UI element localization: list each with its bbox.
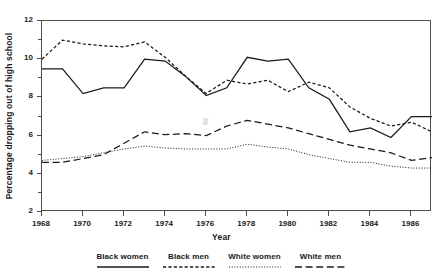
y-tick-label: 8 [11, 91, 33, 100]
x-tick-major [164, 211, 165, 216]
legend: Black womenBlack menWhite womenWhite men [0, 252, 443, 270]
x-tick-major [328, 211, 329, 216]
series-line-black-men [42, 40, 432, 132]
legend-item-black-women[interactable]: Black women [95, 252, 151, 270]
y-tick-label: 10 [11, 53, 33, 62]
x-tick-label: 1982 [308, 219, 348, 228]
y-tick-label: 4 [11, 168, 33, 177]
x-tick-label: 1986 [390, 219, 430, 228]
x-tick-label: 1968 [21, 219, 61, 228]
legend-item-label: White men [300, 252, 341, 261]
series-line-white-men [42, 120, 432, 162]
series-line-black-women [42, 57, 432, 137]
y-tick-label: 12 [11, 15, 33, 24]
x-tick-major [287, 211, 288, 216]
dropout-rate-line-chart: Percentage dropping out of high school 2… [0, 0, 443, 280]
x-tick-major [205, 211, 206, 216]
legend-swatch-solid [95, 264, 151, 270]
x-tick-major [369, 211, 370, 216]
x-tick-label: 1972 [103, 219, 143, 228]
legend-item-white-women[interactable]: White women [227, 252, 283, 270]
x-tick-major [123, 211, 124, 216]
x-tick-label: 1984 [349, 219, 389, 228]
x-tick-major [41, 211, 42, 216]
y-tick-label: 2 [11, 206, 33, 215]
x-tick-major [410, 211, 411, 216]
x-tick-label: 1976 [185, 219, 225, 228]
plot-area [41, 20, 431, 211]
y-tick-label: 6 [11, 130, 33, 139]
legend-swatch-dotted [227, 264, 283, 270]
legend-item-label: Black men [168, 252, 209, 261]
series-line-white-women [42, 144, 432, 168]
y-axis-title: Percentage dropping out of high school [2, 20, 16, 211]
clipped-header-text [0, 0, 443, 7]
series-canvas [42, 21, 432, 212]
legend-item-label: Black women [96, 252, 148, 261]
x-tick-major [246, 211, 247, 216]
x-tick-label: 1978 [226, 219, 266, 228]
x-axis-title: Year [0, 232, 443, 242]
x-tick-label: 1970 [62, 219, 102, 228]
legend-item-label: White women [228, 252, 281, 261]
x-tick-label: 1974 [144, 219, 184, 228]
x-tick-label: 1980 [267, 219, 307, 228]
x-tick-major [82, 211, 83, 216]
legend-item-black-men[interactable]: Black men [161, 252, 217, 270]
legend-swatch-dashed [161, 264, 217, 270]
legend-item-white-men[interactable]: White men [293, 252, 349, 270]
legend-swatch-long-dash [293, 264, 349, 270]
